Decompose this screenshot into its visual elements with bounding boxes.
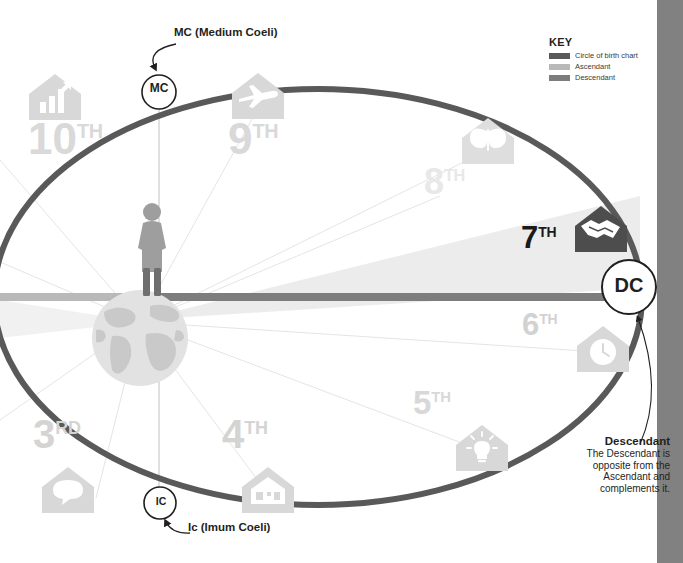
ic-callout: Ic (Imum Coeli) (188, 521, 270, 533)
house-label-8: 8TH (424, 164, 465, 200)
seventh-house-wedge (140, 196, 640, 320)
key-label-ascendant: Ascendant (575, 62, 610, 71)
house-label-4: 4TH (222, 414, 268, 454)
house-number-4: 4 (222, 412, 244, 456)
house-speech-bubble-icon (42, 467, 94, 513)
house-ordinal-8: TH (444, 166, 465, 184)
house-number-3: 3 (33, 412, 55, 456)
house-ordinal-6: TH (539, 311, 557, 327)
dc-node-label: DC (607, 275, 651, 295)
dc-leader-line (638, 318, 652, 444)
house-ordinal-10: TH (77, 120, 103, 142)
key-legend: KEY Circle of birth chart Ascendant Desc… (549, 36, 654, 84)
descendant-callout-title: Descendant (548, 434, 670, 448)
house-home-icon (242, 467, 294, 513)
key-item-circle-of-birth-chart: Circle of birth chart (549, 51, 654, 60)
key-label-circle: Circle of birth chart (575, 51, 638, 60)
house-number-6: 6 (522, 307, 539, 342)
house-number-7: 7 (521, 220, 538, 255)
mc-callout: MC (Medium Coeli) (174, 26, 278, 38)
ic-leader-line (166, 522, 190, 533)
house-ordinal-3: RD (55, 418, 80, 438)
ic-node-label: IC (144, 496, 178, 507)
descendant-callout-body: The Descendant is opposite from the Asce… (548, 448, 670, 494)
house-ordinal-9: TH (252, 120, 278, 142)
key-label-descendant: Descendant (575, 73, 615, 82)
house-number-9: 9 (228, 114, 252, 163)
key-title: KEY (549, 36, 654, 48)
key-swatch-descendant (549, 75, 570, 81)
key-swatch-circle (549, 53, 570, 59)
house-label-10: 10TH (28, 117, 103, 161)
house-label-9: 9TH (228, 117, 278, 161)
mc-leader-line (153, 44, 176, 68)
house-number-10: 10 (28, 114, 77, 163)
globe-icon (92, 290, 188, 386)
house-lightbulb-icon (456, 425, 508, 471)
key-swatch-ascendant (549, 64, 570, 70)
house-clock-icon (577, 326, 629, 372)
house-number-5: 5 (413, 384, 431, 421)
house-ordinal-4: TH (244, 418, 267, 438)
birth-chart-diagram: KEY Circle of birth chart Ascendant Desc… (0, 0, 683, 563)
house-airplane-icon (232, 73, 284, 119)
mc-node-label: MC (142, 82, 176, 94)
house-number-8: 8 (424, 161, 444, 202)
house-label-7: 7TH (521, 222, 556, 253)
key-item-ascendant: Ascendant (549, 62, 654, 71)
house-ordinal-5: TH (431, 389, 450, 405)
house-label-3: 3RD (33, 414, 81, 454)
key-item-descendant: Descendant (549, 73, 654, 82)
descendant-callout: Descendant The Descendant is opposite fr… (548, 434, 670, 494)
house-label-5: 5TH (413, 386, 451, 419)
house-label-6: 6TH (522, 309, 557, 340)
house-ordinal-7: TH (538, 224, 556, 240)
